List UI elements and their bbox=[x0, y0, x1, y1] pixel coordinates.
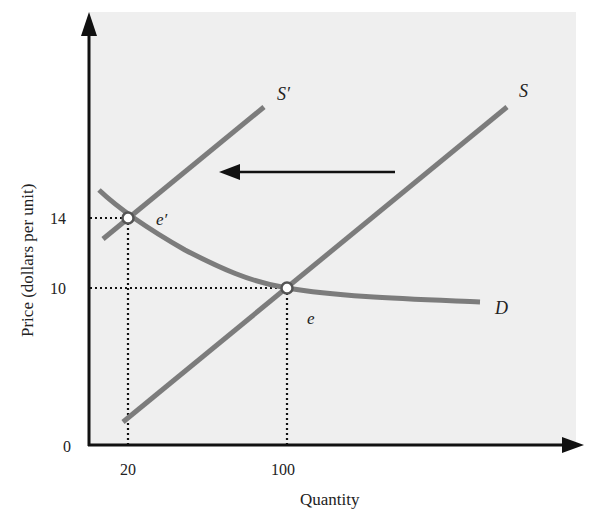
label-e: e bbox=[307, 309, 315, 328]
y-tick-14: 14 bbox=[50, 210, 66, 227]
equilibrium-point-e bbox=[282, 283, 293, 294]
x-tick-20: 20 bbox=[120, 461, 136, 478]
label-d: D bbox=[494, 298, 508, 318]
x-tick-100: 100 bbox=[271, 461, 295, 478]
label-e-prime: e′ bbox=[156, 210, 168, 229]
supply-demand-chart: 14 10 0 20 100 Quantity Price (dollars p… bbox=[0, 0, 596, 523]
y-tick-10: 10 bbox=[50, 280, 66, 297]
x-axis-label: Quantity bbox=[300, 490, 360, 509]
label-s-prime: S′ bbox=[277, 84, 291, 104]
y-tick-0: 0 bbox=[63, 438, 71, 455]
label-s: S bbox=[519, 81, 528, 101]
y-axis-label: Price (dollars per unit) bbox=[18, 184, 37, 337]
equilibrium-point-e-prime bbox=[123, 213, 134, 224]
